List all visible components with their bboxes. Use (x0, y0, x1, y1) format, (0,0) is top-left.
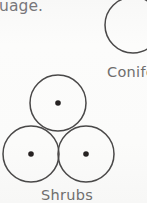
scanned-page-fragment: uage. Conife Shrubs (0, 0, 147, 203)
shrub-circle-cluster (3, 75, 114, 182)
conifer-circle (105, 0, 147, 53)
shrub-center-dot-top (55, 100, 61, 106)
figure-line-art (0, 0, 147, 203)
shrub-center-dot-bottom-left (28, 151, 34, 157)
shrub-center-dot-bottom-right (83, 151, 89, 157)
